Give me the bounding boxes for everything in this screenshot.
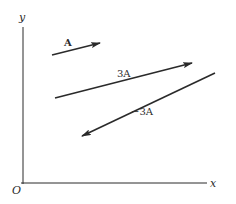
vector-diagram: y x O A 3A −3A: [0, 0, 236, 204]
vector-neg3a-arrow: [82, 73, 215, 136]
y-axis-label: y: [18, 11, 26, 24]
x-axis-label: x: [210, 177, 217, 190]
vector-3a-label: 3A: [117, 68, 131, 79]
origin-label: O: [12, 184, 21, 197]
vector-neg3a-label: −3A: [131, 106, 154, 117]
vector-a-arrow: [52, 43, 100, 55]
vector-a-label: A: [63, 37, 72, 48]
